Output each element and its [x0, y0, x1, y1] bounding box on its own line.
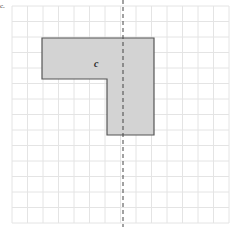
part-label: c.	[0, 2, 5, 10]
shape-label: c	[94, 58, 98, 69]
grid-diagram	[0, 0, 231, 227]
